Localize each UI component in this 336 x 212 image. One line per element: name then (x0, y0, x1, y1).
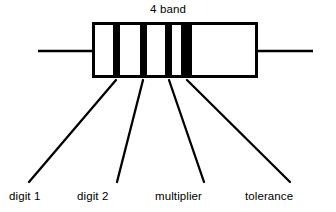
callout-label-digit-1: digit 1 (9, 190, 40, 202)
callout-label-tolerance: tolerance (245, 190, 293, 202)
callout-label-digit-2: digit 2 (77, 190, 108, 202)
callout-line-multiplier (169, 80, 204, 182)
figure-canvas: 4 band digit 1 digit 2 multiplier tolera… (0, 0, 336, 212)
callout-label-multiplier: multiplier (155, 190, 202, 202)
callout-line-digit-2 (117, 80, 143, 182)
band-digit-1 (113, 24, 120, 76)
band-tolerance (181, 24, 192, 76)
callout-line-digit-1 (29, 80, 116, 182)
band-multiplier (165, 24, 172, 76)
callout-line-tolerance (187, 80, 290, 182)
band-digit-2 (140, 24, 147, 76)
resistor-diagram (0, 0, 336, 212)
figure-title: 4 band (0, 3, 336, 15)
